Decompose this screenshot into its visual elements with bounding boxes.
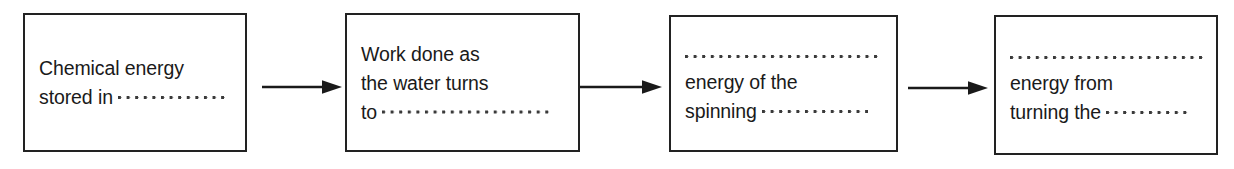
flow-box-4: energy from turning the — [994, 15, 1218, 155]
arrow-1 — [262, 78, 342, 96]
flow-box-2-line-3-text: to — [361, 100, 377, 122]
flow-box-2: Work done as the water turns to — [345, 13, 580, 152]
flow-box-4-line-3: turning the — [1010, 98, 1206, 127]
flow-box-2-line-2: the water turns — [361, 68, 568, 97]
flow-box-2-content: Work done as the water turns to — [361, 39, 568, 126]
flow-box-1-line-2: stored in — [39, 83, 235, 112]
flow-box-4-content: energy from turning the — [1010, 43, 1206, 127]
flow-box-1-content: Chemical energy stored in — [39, 54, 235, 112]
flow-box-4-blank-top — [1010, 52, 1206, 63]
flow-box-1: Chemical energy stored in — [23, 13, 247, 152]
flow-box-4-line-2: energy from — [1010, 69, 1206, 98]
flow-box-2-blank — [382, 106, 550, 117]
flow-box-3-blank — [762, 106, 868, 117]
flow-box-4-blank — [1106, 107, 1188, 118]
arrow-2 — [580, 78, 662, 96]
diagram-canvas: Chemical energy stored in Work done as t… — [0, 0, 1234, 169]
flow-box-2-line-3: to — [361, 97, 568, 126]
flow-box-3-line-3-text: spinning — [685, 100, 757, 122]
flow-box-3-line-2: energy of the — [685, 68, 886, 97]
flow-box-1-line-2-text: stored in — [39, 86, 113, 108]
arrow-3 — [908, 79, 988, 97]
flow-box-1-line-1: Chemical energy — [39, 54, 235, 83]
flow-box-3-content: energy of the spinning — [685, 42, 886, 126]
flow-box-1-blank — [118, 92, 226, 103]
flow-box-4-line-3-text: turning the — [1010, 101, 1101, 123]
flow-box-3: energy of the spinning — [669, 15, 898, 152]
flow-box-2-line-1: Work done as — [361, 39, 568, 68]
flow-box-3-blank-top — [685, 51, 881, 62]
flow-box-3-line-3: spinning — [685, 97, 886, 126]
